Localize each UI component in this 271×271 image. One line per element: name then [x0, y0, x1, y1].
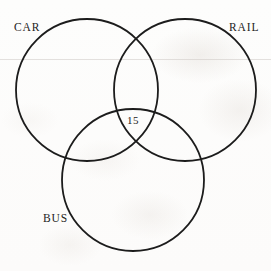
- venn-label-car: CAR: [14, 21, 40, 33]
- venn-circle-car[interactable]: [16, 19, 158, 161]
- venn-label-bus: BUS: [43, 212, 68, 224]
- venn-circle-bus[interactable]: [62, 109, 204, 251]
- venn-region-value-car-rail-bus: 15: [120, 114, 146, 126]
- venn-circles-group: [0, 0, 271, 271]
- venn-label-rail: RAIL: [229, 21, 259, 33]
- venn-diagram-canvas: CAR RAIL BUS 15: [0, 0, 271, 271]
- venn-circle-rail[interactable]: [114, 19, 256, 161]
